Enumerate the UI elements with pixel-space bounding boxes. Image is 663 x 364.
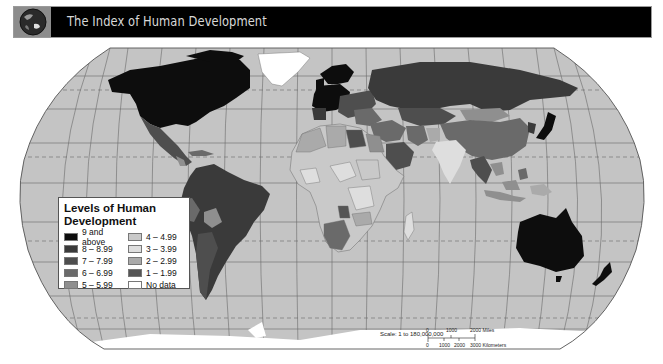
legend-item: 1 – 1.99 (128, 268, 186, 278)
legend-item: No data (128, 280, 186, 290)
legend-swatch (64, 257, 78, 265)
world-map (0, 0, 663, 364)
legend-item: 2 – 2.99 (128, 256, 186, 266)
scale-km-0: 0 (426, 342, 429, 348)
legend-item: 6 – 6.99 (64, 268, 128, 278)
legend-swatch (64, 245, 78, 253)
scale-miles-2000: 2000 Miles (470, 327, 494, 333)
legend-swatch (128, 245, 142, 253)
scale-km-1000: 1000 (439, 342, 450, 348)
legend-swatch (128, 269, 142, 277)
scale-miles-1000: 1000 (446, 327, 457, 333)
legend-swatch (128, 257, 142, 265)
scale-km-3000: 3000 Kilometers (470, 342, 506, 348)
legend-swatch (64, 281, 78, 289)
legend-swatch (128, 233, 142, 241)
legend-title: Levels of Human Development (64, 202, 185, 228)
scale-bar: 0 1000 2000 Miles 0 1000 2000 3000 Kilom… (425, 326, 535, 350)
legend-item: 5 – 5.99 (64, 280, 128, 290)
scale-miles-0: 0 (426, 327, 429, 333)
legend-item: 4 – 4.99 (128, 232, 186, 242)
legend-item: 7 – 7.99 (64, 256, 128, 266)
map-legend: Levels of Human Development 9 and above … (58, 197, 190, 289)
legend-swatch (64, 233, 78, 241)
scale-km-2000: 2000 (454, 342, 465, 348)
legend-item: 9 and above (64, 232, 128, 242)
legend-swatch (128, 281, 142, 289)
legend-item: 3 – 3.99 (128, 244, 186, 254)
legend-swatch (64, 269, 78, 277)
legend-item: 8 – 8.99 (64, 244, 128, 254)
